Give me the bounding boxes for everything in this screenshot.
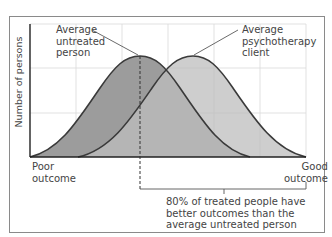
poor-outcome-label: Poor outcome (32, 161, 76, 184)
good-outcome-label: Good outcome (284, 161, 328, 184)
untreated-label: Average untreated person (56, 24, 105, 59)
bracket-note: 80% of treated people have better outcom… (166, 196, 306, 231)
treated-leader-line (194, 30, 238, 55)
treated-label: Average psychotherapy client (242, 24, 316, 59)
y-axis-label: Number of persons (13, 48, 24, 128)
percent-bracket (140, 182, 306, 194)
